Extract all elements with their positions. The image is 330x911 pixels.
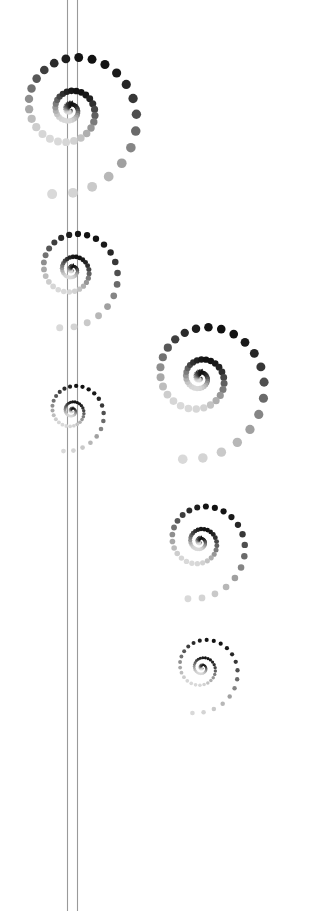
spiral-dot [234, 660, 238, 664]
spiral-dot [219, 642, 223, 646]
spiral-dot [225, 646, 229, 650]
spiral-dot [205, 638, 209, 642]
spiral-dot [41, 267, 47, 273]
spiral-dot [28, 115, 36, 123]
spiral-dot [200, 560, 205, 565]
spiral-dot [235, 668, 239, 672]
spiral-dot [177, 402, 185, 410]
spiral-dot [198, 683, 202, 687]
spiral-dot [254, 410, 263, 419]
spiral-dot [228, 514, 234, 520]
spiral-dot [212, 676, 215, 679]
spiral-dot [43, 252, 49, 258]
spiral-dot [61, 449, 66, 454]
spiral-dot [40, 66, 49, 75]
spiral-dot [194, 683, 198, 687]
spiral-dot [61, 54, 70, 63]
spiral-dot [82, 412, 86, 416]
spiral-dot [128, 94, 137, 103]
spiral-dot [94, 434, 99, 439]
spiral-dot [52, 399, 56, 403]
spiral-dot [223, 584, 230, 591]
spiral-dot [62, 387, 66, 391]
spiral-dot [235, 677, 239, 681]
spiral-dot [180, 512, 186, 518]
spiral-dot [46, 279, 52, 285]
spiral-dot [241, 553, 247, 559]
spiral-dot [92, 391, 96, 395]
spiral-dot [232, 575, 239, 582]
spiral-dot [39, 130, 47, 138]
artwork-canvas: Dotted Spiral Composition [0, 0, 330, 911]
spiral-dot [181, 329, 189, 337]
spiral-dot [182, 649, 186, 653]
spiral-dot [220, 508, 226, 514]
spiral-dot [32, 74, 41, 83]
spiral-dot [67, 289, 72, 294]
spiral-dot [71, 448, 76, 453]
spiral-dot [51, 409, 55, 413]
spiral-dot [32, 123, 40, 131]
spiral-dot [170, 397, 178, 405]
spiral-dot [74, 384, 78, 388]
spiral-dot [213, 673, 216, 676]
spiral-dot [233, 438, 242, 447]
spiral-dot [112, 68, 121, 77]
spiral-dot [220, 374, 227, 381]
spiral-dot [132, 110, 141, 119]
spiral-dot [91, 112, 98, 119]
spiral-dot [101, 411, 106, 416]
spiral-dot [198, 453, 208, 463]
spiral-dot [238, 564, 245, 571]
spiral-dot [54, 138, 62, 146]
spiral-dot [206, 681, 210, 685]
spiral-dot [185, 595, 192, 602]
spiral-dot [54, 394, 58, 398]
spiral-dot [100, 403, 104, 407]
spiral-dot [213, 666, 216, 669]
spiral-dot [84, 319, 91, 326]
spiral-dot [88, 55, 97, 64]
spiral-dot [64, 424, 68, 428]
spiral-dot [95, 312, 102, 319]
spiral-dot [66, 232, 72, 238]
spiral-dot [179, 655, 183, 659]
spiral-dot [170, 539, 176, 545]
spiral-dot [171, 525, 177, 531]
spiral-dot [171, 545, 177, 551]
spiral-dot [232, 686, 236, 690]
spiral-dot [104, 172, 114, 182]
spiral-dot [91, 106, 98, 113]
spiral-dot [25, 95, 33, 103]
spiral-dot [184, 559, 189, 564]
spiral-dot [185, 679, 189, 683]
spiral-dot [193, 405, 200, 412]
spiral-dot [198, 639, 202, 643]
spiral-dot [235, 522, 241, 528]
spiral-dot [212, 707, 217, 712]
spiral-dot [72, 424, 76, 428]
spiral-dot [104, 303, 111, 310]
spiral-dot [159, 383, 167, 391]
spiral-dot [122, 80, 131, 89]
spiral-dot [256, 362, 265, 371]
spiral-dot [192, 324, 200, 332]
spiral-dot [192, 641, 196, 645]
spiral-dot [68, 188, 78, 198]
spiral-dot [171, 335, 179, 343]
spiral-dot [68, 424, 72, 428]
spiral-dot [99, 427, 104, 432]
spiral-dot [217, 325, 226, 334]
spiral-dot [100, 60, 109, 69]
spiral-dot [47, 189, 57, 199]
spiral-dot [117, 158, 127, 168]
spiral-dot [179, 555, 184, 560]
spiral-dot [212, 590, 219, 597]
spiral-dot [217, 447, 226, 456]
spiral-dot [58, 235, 64, 241]
spiral-dot [46, 135, 54, 143]
spiral-dot [229, 330, 238, 339]
spiral-dot [174, 551, 180, 557]
spiral-dot [114, 281, 121, 288]
spiral-dot [112, 259, 119, 266]
